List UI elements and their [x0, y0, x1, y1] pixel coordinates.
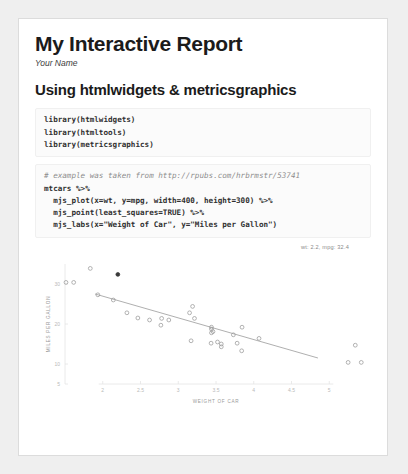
report-page: My Interactive Report Your Name Using ht… — [18, 18, 388, 456]
x-axis-title: WEIGHT OF CAR — [193, 399, 240, 404]
y-axis-title: MILES PER GALLON — [46, 296, 51, 352]
code-line: mjs_labs(x="Weight of Car", y="Miles per… — [44, 220, 277, 229]
data-point[interactable] — [189, 339, 193, 343]
data-point[interactable] — [353, 343, 357, 347]
least-squares-line — [95, 294, 318, 358]
library-code-text: library(htmlwidgets) library(htmltools) … — [44, 115, 154, 149]
data-point[interactable] — [88, 266, 92, 270]
plot-code-text: # example was taken from http://rpubs.co… — [44, 171, 300, 229]
x-tick-label: 2.5 — [137, 387, 144, 393]
data-point[interactable] — [167, 318, 171, 322]
x-tick-label: 5 — [328, 387, 331, 393]
data-point[interactable] — [209, 341, 213, 345]
plot-code-block: # example was taken from http://rpubs.co… — [35, 164, 371, 237]
data-point[interactable] — [240, 349, 244, 353]
x-tick-label: 3 — [177, 387, 180, 393]
y-tick-label: 5 — [57, 381, 60, 387]
data-point[interactable] — [125, 311, 129, 315]
x-tick-label: 4 — [252, 387, 255, 393]
x-tick-label: 2 — [101, 387, 104, 393]
y-tick-label: 10 — [54, 361, 60, 367]
code-comment: # example was taken from http://rpubs.co… — [44, 171, 300, 180]
data-point[interactable] — [72, 280, 76, 284]
scatter-plot-svg[interactable]: 3020105MILES PER GALLON22.533.544.55WEIG… — [35, 258, 373, 418]
report-content: My Interactive Report Your Name Using ht… — [19, 19, 387, 426]
code-line: library(metricsgraphics) — [44, 140, 154, 149]
data-point[interactable] — [188, 311, 192, 315]
library-code-block: library(htmlwidgets) library(htmltools) … — [35, 108, 371, 157]
data-point[interactable] — [160, 316, 164, 320]
y-tick-label: 20 — [54, 321, 60, 327]
data-point[interactable] — [219, 342, 223, 346]
data-point-active[interactable] — [116, 272, 120, 276]
data-point[interactable] — [235, 341, 239, 345]
data-point[interactable] — [359, 360, 363, 364]
data-point[interactable] — [159, 323, 163, 327]
metricsgraphics-chart[interactable]: wt: 2.2, mpg: 32.4 3020105MILES PER GALL… — [35, 244, 373, 426]
y-tick-label: 30 — [54, 281, 60, 287]
code-line: mjs_plot(x=wt, y=mpg, width=400, height=… — [44, 196, 273, 205]
x-tick-label: 4.5 — [288, 387, 295, 393]
data-point[interactable] — [191, 304, 195, 308]
data-point[interactable] — [216, 340, 220, 344]
data-point[interactable] — [240, 325, 244, 329]
section-heading: Using htmlwidgets & metricsgraphics — [35, 81, 371, 98]
data-point[interactable] — [346, 360, 350, 364]
code-line: library(htmltools) — [44, 128, 126, 137]
chart-rollover-label: wt: 2.2, mpg: 32.4 — [301, 244, 349, 250]
data-point[interactable] — [136, 316, 140, 320]
data-point[interactable] — [193, 316, 197, 320]
data-point[interactable] — [257, 336, 261, 340]
code-line: mjs_point(least_squares=TRUE) %>% — [44, 208, 204, 217]
code-line: mtcars %>% — [44, 184, 90, 193]
author-line: Your Name — [35, 58, 371, 68]
x-tick-label: 3.5 — [213, 387, 220, 393]
page-title: My Interactive Report — [35, 32, 371, 55]
data-point[interactable] — [148, 318, 152, 322]
code-line: library(htmlwidgets) — [44, 115, 135, 124]
